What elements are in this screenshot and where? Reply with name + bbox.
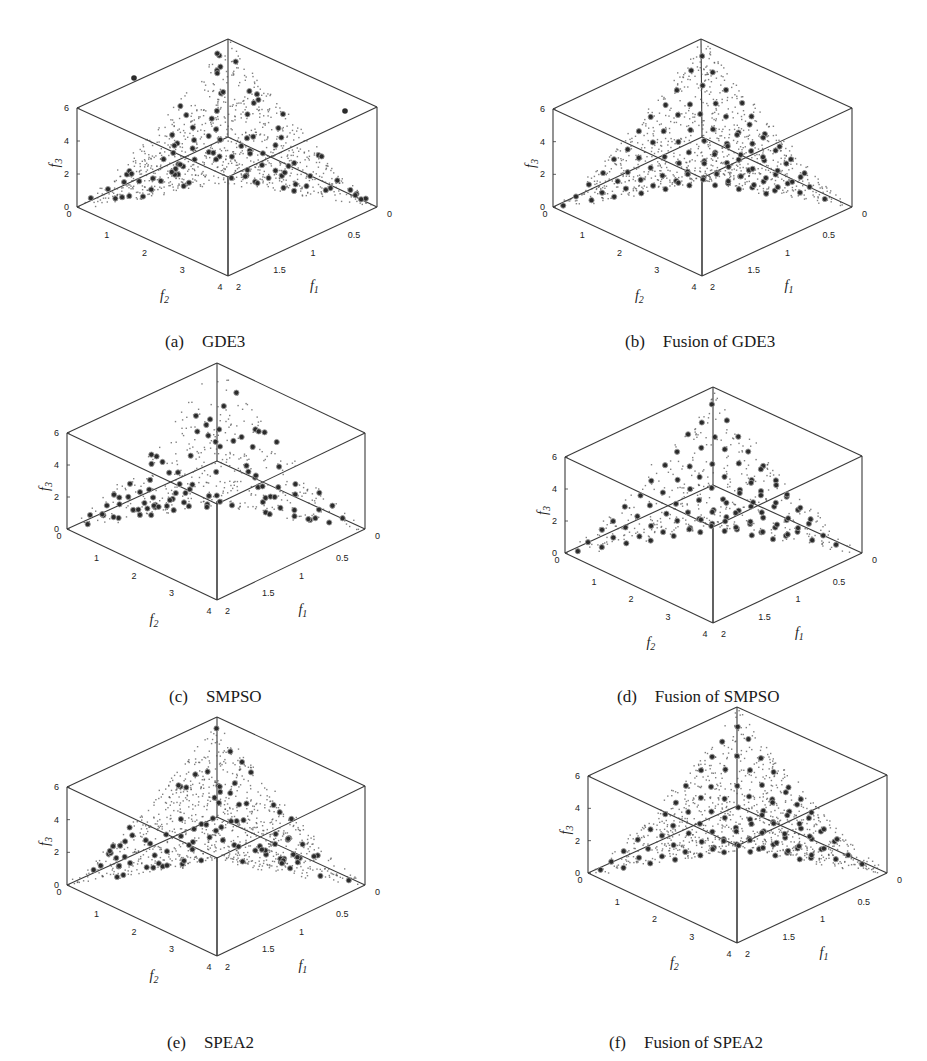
svg-text:4: 4 — [54, 815, 59, 825]
caption-tag: (d) — [617, 687, 637, 706]
svg-text:6: 6 — [552, 452, 557, 462]
panel-d: 02460123400.511.52f3f2f1 — [535, 387, 877, 652]
caption-tag: (e) — [167, 1033, 186, 1052]
box-edge — [588, 873, 737, 943]
f1-axis-label: f1 — [820, 945, 829, 962]
svg-text:3: 3 — [689, 932, 694, 942]
svg-text:0: 0 — [387, 209, 392, 219]
svg-text:4: 4 — [575, 803, 580, 813]
caption-d: (d)Fusion of SMPSO — [600, 667, 780, 727]
svg-text:3: 3 — [180, 265, 185, 275]
svg-text:4: 4 — [691, 282, 696, 292]
f1-axis-label: f1 — [785, 278, 794, 295]
svg-text:2: 2 — [142, 248, 147, 258]
svg-text:0: 0 — [66, 209, 71, 219]
f2-axis-label: f2 — [635, 288, 644, 305]
caption-b: (b)Fusion of GDE3 — [608, 312, 775, 372]
box-edge — [217, 717, 365, 786]
svg-text:0.5: 0.5 — [833, 577, 846, 587]
box-edge — [228, 207, 377, 276]
panel-e: 02460123400.511.52f3f2f1 — [37, 717, 380, 985]
svg-text:4: 4 — [206, 606, 211, 616]
svg-text:3: 3 — [169, 588, 174, 598]
svg-text:6: 6 — [540, 104, 545, 114]
box-edge — [713, 387, 862, 456]
svg-text:1: 1 — [311, 248, 316, 258]
svg-text:0.5: 0.5 — [336, 553, 349, 563]
pareto-reference-dots — [577, 393, 851, 554]
f1-axis-label: f1 — [795, 625, 804, 642]
svg-text:1: 1 — [796, 594, 801, 604]
svg-text:2: 2 — [575, 836, 580, 846]
svg-text:6: 6 — [575, 771, 580, 781]
obtained-solutions — [575, 402, 839, 554]
f3-axis-label: f3 — [535, 506, 552, 515]
caption-tag: (c) — [169, 687, 188, 706]
svg-text:2: 2 — [131, 571, 136, 581]
box-edge — [553, 207, 702, 276]
svg-text:1: 1 — [580, 230, 585, 240]
box-edge — [701, 39, 852, 108]
svg-text:0: 0 — [862, 209, 867, 219]
f2-axis-label: f2 — [646, 635, 655, 652]
svg-text:2: 2 — [236, 282, 241, 292]
svg-text:2: 2 — [652, 914, 657, 924]
svg-text:4: 4 — [54, 460, 59, 470]
svg-text:4: 4 — [540, 137, 545, 147]
box-edge — [217, 885, 365, 956]
box-edge — [737, 873, 887, 943]
svg-text:1.5: 1.5 — [758, 612, 771, 622]
caption-title: SMPSO — [206, 687, 262, 706]
f3-axis-label: f3 — [37, 482, 54, 491]
svg-text:4: 4 — [702, 629, 707, 639]
svg-text:0.5: 0.5 — [823, 230, 836, 240]
box-edge — [228, 107, 377, 177]
outlier-marker — [342, 108, 348, 114]
box-edge — [565, 387, 713, 457]
svg-text:1.5: 1.5 — [783, 932, 796, 942]
svg-text:0: 0 — [577, 875, 582, 885]
box-edge — [217, 433, 365, 504]
f2-axis-label: f2 — [160, 288, 169, 305]
panel-f: 02460123400.511.52f3f2f1 — [558, 707, 902, 972]
svg-text:2: 2 — [54, 847, 59, 857]
svg-text:0.5: 0.5 — [336, 909, 349, 919]
svg-text:0: 0 — [897, 875, 902, 885]
caption-title: Fusion of SPEA2 — [644, 1033, 763, 1052]
box-edge — [67, 363, 217, 433]
f3-axis-label: f3 — [47, 159, 64, 168]
svg-text:4: 4 — [552, 484, 557, 494]
box-edge — [77, 207, 228, 276]
svg-text:3: 3 — [665, 612, 670, 622]
svg-text:6: 6 — [54, 428, 59, 438]
box-edge — [217, 363, 365, 433]
caption-tag: (b) — [625, 332, 645, 351]
f1-axis-label: f1 — [298, 958, 307, 975]
box-edge — [77, 39, 228, 108]
svg-text:1.5: 1.5 — [273, 265, 286, 275]
svg-text:0: 0 — [542, 209, 547, 219]
svg-text:4: 4 — [217, 282, 222, 292]
box-edge — [217, 817, 365, 885]
svg-text:2: 2 — [617, 248, 622, 258]
panel-c: 02460123400.511.52f3f2f1 — [37, 363, 380, 629]
svg-text:2: 2 — [721, 629, 726, 639]
svg-text:2: 2 — [54, 492, 59, 502]
svg-text:1: 1 — [94, 909, 99, 919]
svg-text:1.5: 1.5 — [262, 944, 275, 954]
svg-text:2: 2 — [745, 949, 750, 959]
obtained-solutions — [85, 390, 345, 527]
box-edge — [67, 529, 217, 600]
f3-axis-label: f3 — [37, 837, 54, 846]
svg-text:3: 3 — [169, 944, 174, 954]
svg-text:3: 3 — [654, 265, 659, 275]
f2-axis-label: f2 — [670, 955, 679, 972]
svg-text:0: 0 — [554, 555, 559, 565]
caption-f: (f)Fusion of SPEA2 — [592, 1013, 763, 1061]
box-edge — [713, 553, 862, 623]
panel-a: 02460123400.511.52f3f2f1 — [47, 39, 392, 305]
f2-axis-label: f2 — [150, 968, 159, 985]
caption-title: GDE3 — [202, 332, 245, 351]
svg-text:1: 1 — [591, 577, 596, 587]
caption-title: SPEA2 — [204, 1033, 254, 1052]
